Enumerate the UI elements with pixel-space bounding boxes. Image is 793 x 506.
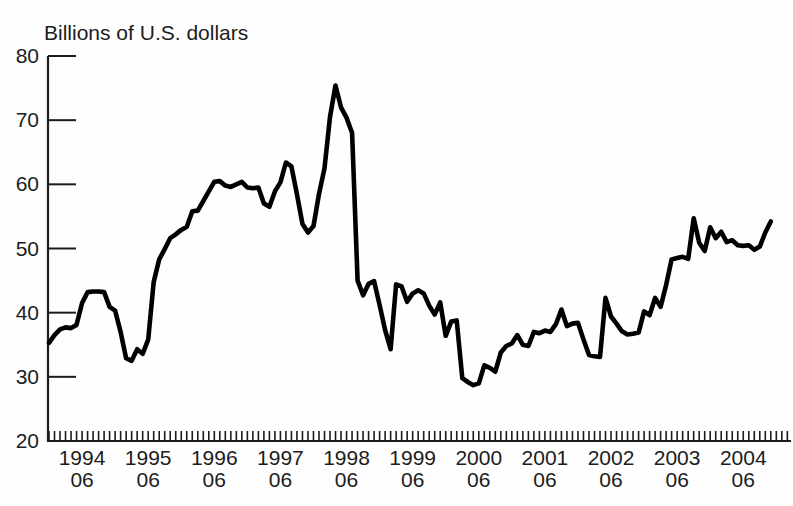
x-tick-label-month: 06 bbox=[137, 468, 160, 491]
chart-canvas: 2030405060708019940619950619960619970619… bbox=[0, 0, 793, 506]
x-tick-label-month: 06 bbox=[599, 468, 622, 491]
x-tick-label-year: 2002 bbox=[588, 446, 635, 469]
x-tick-label-year: 1999 bbox=[389, 446, 436, 469]
y-tick-label: 40 bbox=[16, 301, 39, 324]
x-tick-label-year: 2000 bbox=[455, 446, 502, 469]
y-tick-label: 30 bbox=[16, 365, 39, 388]
y-tick-label: 70 bbox=[16, 108, 39, 131]
data-series-line bbox=[49, 86, 771, 386]
axes bbox=[48, 56, 791, 441]
line-chart-figure: Billions of U.S. dollars 203040506070801… bbox=[0, 0, 793, 506]
chart-title: Billions of U.S. dollars bbox=[44, 21, 248, 45]
x-tick-label-year: 2004 bbox=[720, 446, 767, 469]
x-tick-label-month: 06 bbox=[533, 468, 556, 491]
x-tick-label-year: 2001 bbox=[522, 446, 569, 469]
x-tick-label-year: 1996 bbox=[191, 446, 238, 469]
x-tick-label-year: 1995 bbox=[125, 446, 172, 469]
x-tick-label-year: 2003 bbox=[654, 446, 701, 469]
x-tick-label-month: 06 bbox=[70, 468, 93, 491]
x-tick-label-month: 06 bbox=[335, 468, 358, 491]
x-tick-label-year: 1998 bbox=[323, 446, 370, 469]
y-tick-label: 80 bbox=[16, 44, 39, 67]
y-tick-label: 50 bbox=[16, 237, 39, 260]
x-tick-label-month: 06 bbox=[401, 468, 424, 491]
x-tick-label-year: 1994 bbox=[59, 446, 106, 469]
x-tick-label-year: 1997 bbox=[257, 446, 304, 469]
x-tick-label-month: 06 bbox=[269, 468, 292, 491]
x-tick-label-month: 06 bbox=[732, 468, 755, 491]
x-tick-label-month: 06 bbox=[665, 468, 688, 491]
y-tick-label: 20 bbox=[16, 429, 39, 452]
y-tick-label: 60 bbox=[16, 172, 39, 195]
x-tick-label-month: 06 bbox=[467, 468, 490, 491]
x-tick-label-month: 06 bbox=[203, 468, 226, 491]
